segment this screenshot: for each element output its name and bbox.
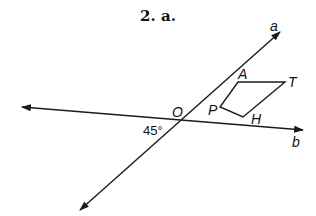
geometry-figure: 2. a. a b O 45° A T H P bbox=[0, 0, 316, 216]
point-o-label: O bbox=[172, 104, 183, 120]
line-b-label: b bbox=[292, 134, 300, 150]
problem-title: 2. a. bbox=[140, 7, 176, 25]
line-a bbox=[80, 32, 280, 210]
vertex-t-label: T bbox=[288, 74, 298, 90]
line-a-label: a bbox=[270, 18, 278, 34]
vertex-h-label: H bbox=[251, 111, 262, 127]
vertex-p-label: P bbox=[208, 102, 218, 118]
angle-label: 45° bbox=[143, 123, 163, 138]
vertex-a-label: A bbox=[237, 66, 247, 82]
